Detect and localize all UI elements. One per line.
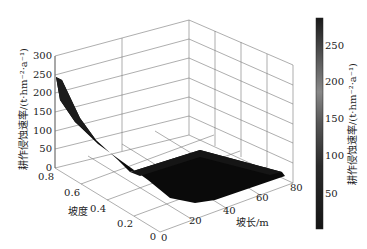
surface-chart: 0 50 100 150 200 250 300 0.8 0.6 0.4 0.2… bbox=[0, 0, 367, 249]
svg-text:300: 300 bbox=[33, 50, 52, 61]
colorbar-label: 耕作侵蚀速率/(t·hm⁻²·a⁻¹) bbox=[346, 63, 358, 185]
x-axis-label: 坡长/m bbox=[236, 216, 269, 228]
svg-text:250: 250 bbox=[33, 69, 52, 80]
svg-text:0.4: 0.4 bbox=[90, 203, 106, 214]
svg-text:40: 40 bbox=[223, 205, 236, 216]
z-axis-label: 耕作侵蚀速率/(t·hm⁻²·a⁻¹) bbox=[17, 48, 29, 170]
y-axis-ticks: 0.8 0.6 0.4 0.2 0 bbox=[38, 171, 156, 242]
colorbar-ticks: 50 100 150 200 250 bbox=[325, 40, 344, 199]
back-left-wall-grid bbox=[55, 20, 189, 168]
svg-text:250: 250 bbox=[325, 40, 344, 51]
svg-text:100: 100 bbox=[33, 125, 52, 136]
svg-text:50: 50 bbox=[325, 188, 338, 199]
svg-text:0: 0 bbox=[161, 232, 167, 243]
svg-text:100: 100 bbox=[325, 150, 344, 161]
svg-text:0.8: 0.8 bbox=[38, 171, 54, 182]
svg-text:60: 60 bbox=[256, 192, 269, 203]
svg-text:50: 50 bbox=[39, 143, 52, 154]
svg-text:200: 200 bbox=[33, 87, 52, 98]
svg-text:20: 20 bbox=[189, 215, 202, 226]
colorbar bbox=[316, 18, 323, 229]
svg-text:150: 150 bbox=[33, 106, 52, 117]
y-axis-label: 坡度 bbox=[68, 205, 88, 217]
z-axis-ticks: 0 50 100 150 200 250 300 bbox=[33, 50, 52, 173]
svg-text:200: 200 bbox=[325, 76, 344, 87]
svg-text:150: 150 bbox=[325, 113, 344, 124]
svg-text:0.6: 0.6 bbox=[64, 187, 80, 198]
svg-text:80: 80 bbox=[290, 182, 303, 193]
svg-text:0.2: 0.2 bbox=[117, 218, 133, 229]
svg-text:0: 0 bbox=[150, 231, 156, 242]
